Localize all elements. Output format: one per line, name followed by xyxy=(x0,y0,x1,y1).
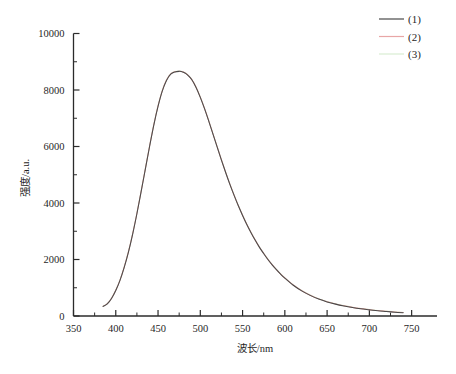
y-tick-label: 6000 xyxy=(44,141,65,152)
y-axis-title: 强度/a.u. xyxy=(19,159,31,197)
y-tick-label: 4000 xyxy=(44,198,65,209)
x-tick-label: 550 xyxy=(235,323,251,334)
y-tick-label: 8000 xyxy=(44,85,65,96)
spectrum-figure: 0200040006000800010000 35040045050055060… xyxy=(0,0,456,374)
series-line-1 xyxy=(103,71,403,312)
x-axis-tick-labels: 350400450500550600650700750 xyxy=(66,323,420,334)
x-tick-label: 600 xyxy=(277,323,293,334)
x-tick-label: 750 xyxy=(404,323,420,334)
chart-canvas: 0200040006000800010000 35040045050055060… xyxy=(0,0,456,374)
y-tick-label: 0 xyxy=(59,311,64,322)
x-tick-label: 650 xyxy=(319,323,335,334)
y-axis-tick-labels: 0200040006000800010000 xyxy=(38,28,64,322)
y-axis-ticks xyxy=(74,34,80,317)
x-tick-label: 500 xyxy=(192,323,208,334)
series-line-3 xyxy=(103,71,403,312)
x-axis-title: 波长/nm xyxy=(237,342,273,354)
x-tick-label: 700 xyxy=(361,323,377,334)
x-tick-label: 400 xyxy=(108,323,124,334)
x-tick-label: 350 xyxy=(66,323,82,334)
legend-label-1: (1) xyxy=(408,13,421,26)
y-tick-label: 2000 xyxy=(44,254,65,265)
legend-label-2: (2) xyxy=(408,31,421,44)
y-tick-label: 10000 xyxy=(38,28,64,39)
legend-label-3: (3) xyxy=(408,48,421,61)
x-axis-ticks xyxy=(74,310,412,316)
series-line-2 xyxy=(103,71,403,312)
legend: (1)(2)(3) xyxy=(379,13,421,61)
data-series-group xyxy=(103,71,403,313)
x-tick-label: 450 xyxy=(150,323,166,334)
